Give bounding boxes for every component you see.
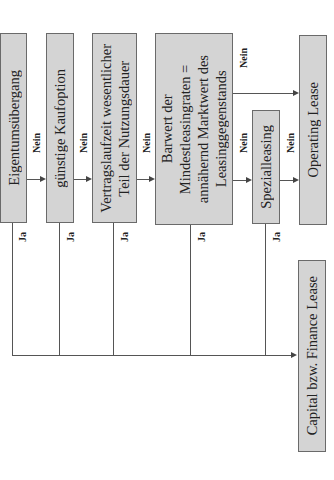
connector-no-6 <box>280 180 294 181</box>
connector-yes-3 <box>113 223 114 356</box>
arrow-head-icon <box>293 90 299 96</box>
label-yes-5: Ja <box>271 232 282 242</box>
box-vertragslaufzeit: Vertragslaufzeit wesentlicherTeil der Nu… <box>92 33 137 223</box>
box-finance-lease: Capital bzw. Finance Lease <box>298 260 326 452</box>
connector-yes-4 <box>190 225 191 356</box>
box-spezialleasing: Spezialleasing <box>252 110 280 224</box>
connector-no-5 <box>233 93 294 94</box>
label-no-6: Nein <box>285 133 296 153</box>
arrow-head-icon <box>291 352 297 358</box>
arrow-head-icon <box>246 177 252 183</box>
connector-yes-5 <box>265 224 266 356</box>
arrow-head-icon <box>149 176 155 182</box>
arrow-head-icon <box>40 176 46 182</box>
box-vertragslaufzeit-label: Vertragslaufzeit wesentlicherTeil der Nu… <box>97 44 133 213</box>
connector-yes-2 <box>59 223 60 356</box>
label-no-1: Nein <box>31 133 42 153</box>
box-finance-lease-label: Capital bzw. Finance Lease <box>303 276 321 435</box>
box-barwert-label: Barwert derMindestleasingraten =annähern… <box>158 55 230 203</box>
label-no-2: Nein <box>78 133 89 153</box>
label-no-5: Nein <box>238 48 249 68</box>
box-operating-lease-label: Operating Lease <box>304 82 322 177</box>
box-eigentumsuebergang: Eigentumsübergang <box>0 33 27 223</box>
connector-no-4 <box>233 180 247 181</box>
box-spezialleasing-label: Spezialleasing <box>257 125 275 209</box>
arrow-head-icon <box>86 176 92 182</box>
label-yes-3: Ja <box>119 232 130 242</box>
box-kaufoption-label: günstige Kaufoption <box>51 69 69 188</box>
label-no-4: Nein <box>238 133 249 153</box>
connector-yes-collector <box>12 355 292 356</box>
arrow-head-icon <box>293 177 299 183</box>
label-yes-4: Ja <box>196 232 207 242</box>
label-no-3: Nein <box>141 133 152 153</box>
label-yes-2: Ja <box>65 232 76 242</box>
box-operating-lease: Operating Lease <box>299 35 327 225</box>
connector-no-1 <box>27 179 41 180</box>
label-yes-1: Ja <box>17 232 28 242</box>
box-eigentumsuebergang-label: Eigentumsübergang <box>5 70 23 186</box>
box-barwert: Barwert derMindestleasingraten =annähern… <box>155 33 233 225</box>
box-kaufoption: günstige Kaufoption <box>46 33 74 223</box>
connector-yes-1 <box>12 223 13 356</box>
